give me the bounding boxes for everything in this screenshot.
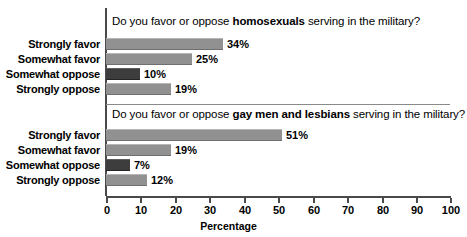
bar-value-label: 51% (286, 128, 308, 142)
bar-row: Strongly favor 51% (0, 128, 467, 142)
panel-title-top-emphasis: homosexuals (232, 15, 304, 27)
x-tick (313, 198, 315, 203)
x-tick-label: 70 (328, 204, 368, 217)
category-label: Somewhat favor (0, 143, 100, 157)
bar-top-somewhat-oppose (106, 68, 140, 80)
bar-row: Somewhat favor 25% (0, 52, 467, 66)
x-tick (347, 198, 349, 203)
panel-title-bottom-prefix: Do you favor or oppose (112, 108, 232, 120)
bar-top-strongly-oppose (106, 83, 171, 95)
x-tick (450, 198, 452, 203)
bar-row: Somewhat oppose 10% (0, 67, 467, 81)
x-axis: 0 10 20 30 40 50 60 70 80 90 100 Percent… (0, 196, 467, 237)
bar-bottom-somewhat-favor (106, 144, 171, 156)
category-label: Somewhat oppose (0, 67, 100, 81)
panel-title-top: Do you favor or oppose homosexuals servi… (112, 15, 420, 27)
category-label: Strongly favor (0, 37, 100, 51)
bar-value-label: 12% (151, 173, 173, 187)
x-tick-label: 100 (431, 204, 467, 217)
bar-group-top: Strongly favor 34% Somewhat favor 25% So… (0, 37, 467, 97)
bar-row: Strongly oppose 12% (0, 173, 467, 187)
bar-row: Strongly oppose 19% (0, 82, 467, 96)
x-tick (106, 198, 108, 203)
bar-bottom-strongly-favor (106, 129, 282, 141)
x-axis-title-text: Percentage (200, 220, 257, 232)
bar-top-somewhat-favor (106, 53, 192, 65)
bar-value-label: 10% (144, 67, 166, 81)
bar-value-label: 25% (196, 52, 218, 66)
category-label: Somewhat oppose (0, 158, 100, 172)
panel-title-bottom-suffix: serving in the military? (350, 108, 465, 120)
x-tick-label: 30 (190, 204, 230, 217)
panel-title-top-suffix: serving in the military? (305, 15, 420, 27)
panel-title-bottom-emphasis: gay men and lesbians (232, 108, 350, 120)
chart-figure: Do you favor or oppose homosexuals servi… (0, 0, 467, 237)
bar-row: Somewhat favor 19% (0, 143, 467, 157)
x-tick-label: 10 (121, 204, 161, 217)
bar-row: Somewhat oppose 7% (0, 158, 467, 172)
bar-value-label: 7% (134, 158, 150, 172)
bar-value-label: 34% (227, 37, 249, 51)
panel-title-top-prefix: Do you favor or oppose (112, 15, 232, 27)
category-label: Somewhat favor (0, 52, 100, 66)
bar-top-strongly-favor (106, 38, 223, 50)
x-axis-title: Percentage (0, 220, 467, 232)
x-tick-label: 50 (259, 204, 299, 217)
x-tick (209, 198, 211, 203)
bar-group-bottom: Strongly favor 51% Somewhat favor 19% So… (0, 128, 467, 188)
category-label: Strongly favor (0, 128, 100, 142)
bar-value-label: 19% (175, 143, 197, 157)
x-tick (278, 198, 280, 203)
category-label: Strongly oppose (0, 82, 100, 96)
bar-bottom-strongly-oppose (106, 174, 147, 186)
bar-bottom-somewhat-oppose (106, 159, 130, 171)
category-label: Strongly oppose (0, 173, 100, 187)
bar-row: Strongly favor 34% (0, 37, 467, 51)
x-tick (244, 198, 246, 203)
panel-title-bottom: Do you favor or oppose gay men and lesbi… (112, 108, 465, 120)
bar-value-label: 19% (175, 82, 197, 96)
x-tick (382, 198, 384, 203)
x-tick (140, 198, 142, 203)
x-tick (416, 198, 418, 203)
x-tick (175, 198, 177, 203)
